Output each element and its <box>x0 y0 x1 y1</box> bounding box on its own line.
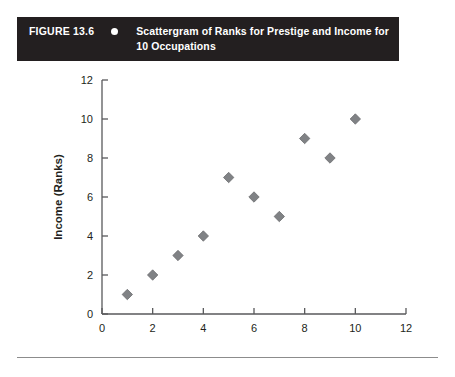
y-tick-label: 6 <box>87 191 93 203</box>
data-point-marker <box>350 114 360 124</box>
y-tick-label: 0 <box>87 308 93 320</box>
x-tick-label: 6 <box>251 322 257 334</box>
data-markers-group <box>122 114 360 300</box>
bottom-divider-rule <box>17 357 438 358</box>
figure-header-bar: FIGURE 13.6 Scattergram of Ranks for Pre… <box>17 17 399 61</box>
x-tick-label: 8 <box>302 322 308 334</box>
data-point-marker <box>325 153 335 163</box>
figure-title-label: Scattergram of Ranks for Prestige and In… <box>136 24 389 53</box>
figure-number-label: FIGURE 13.6 <box>29 24 94 39</box>
data-point-marker <box>223 172 233 182</box>
x-tick-label: 0 <box>99 322 105 334</box>
x-tick-label: 12 <box>400 322 412 334</box>
data-point-marker <box>198 231 208 241</box>
data-point-marker <box>173 250 183 260</box>
scatterplot-figure: 024681012024681012 Prestige (Ranks) Inco… <box>0 61 455 346</box>
y-axis-title: Income (Ranks) <box>52 154 64 240</box>
x-tick-label: 4 <box>200 322 206 334</box>
data-point-marker <box>147 270 157 280</box>
data-point-marker <box>122 289 132 299</box>
y-tick-label: 4 <box>87 230 93 242</box>
y-tick-label: 2 <box>87 269 93 281</box>
y-tick-label: 10 <box>81 113 93 125</box>
data-point-marker <box>249 192 259 202</box>
scatterplot-svg: 024681012024681012 Prestige (Ranks) Inco… <box>0 61 455 346</box>
y-tick-label: 12 <box>81 74 93 86</box>
bullet-dot-icon <box>111 28 118 35</box>
x-tick-label: 2 <box>150 322 156 334</box>
data-point-marker <box>299 133 309 143</box>
x-tick-label: 10 <box>349 322 361 334</box>
y-tick-label: 8 <box>87 152 93 164</box>
data-point-marker <box>274 211 284 221</box>
